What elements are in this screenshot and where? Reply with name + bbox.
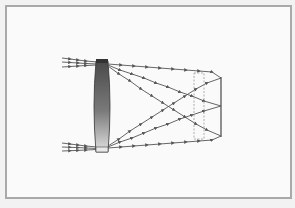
dashed-aperture-box (194, 73, 204, 139)
incoming-rays-bottom (62, 143, 97, 151)
incoming-rays-top (62, 58, 97, 67)
converging-lens (94, 59, 110, 152)
optics-diagram (0, 0, 295, 208)
